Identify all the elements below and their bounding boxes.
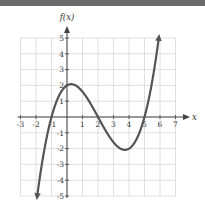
y-tick-label: 4 [59,50,64,59]
y-tick-label: -2 [57,144,65,153]
y-tick-label: 3 [59,65,64,74]
y-tick-label: -4 [57,176,65,185]
x-tick-label: 3 [111,120,116,129]
x-tick-label: 1 [80,120,85,129]
x-tick-label: -3 [17,120,25,129]
axes [18,26,191,198]
y-axis-label: f(x) [59,12,75,22]
y-tick-label: 5 [59,34,64,43]
x-axis-label: x [192,112,197,122]
x-tick-label: 4 [127,120,132,129]
x-tick-label: 7 [173,120,178,129]
x-tick-label: -2 [32,120,40,129]
function-graph: -3-2-1123456754321-1-2-3-4-5 x f(x) [0,0,205,224]
y-tick-label: -5 [57,192,65,201]
y-tick-label: 1 [59,97,64,106]
y-tick-label: -1 [57,129,64,138]
y-tick-label: -3 [57,160,65,169]
x-tick-label: 6 [158,120,163,129]
